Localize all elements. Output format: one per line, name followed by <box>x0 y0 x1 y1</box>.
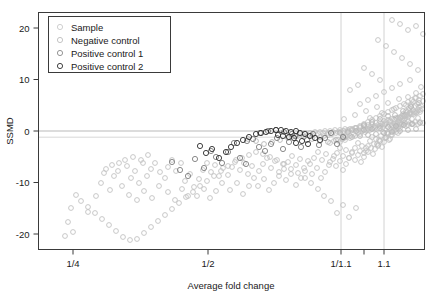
data-point <box>290 154 295 159</box>
data-point <box>120 184 125 189</box>
data-point <box>376 38 381 43</box>
data-point <box>323 170 328 175</box>
data-point <box>114 229 119 234</box>
data-point <box>362 66 367 71</box>
data-point <box>356 153 361 158</box>
data-point <box>125 164 130 169</box>
data-point <box>344 162 349 167</box>
data-point <box>247 153 252 158</box>
data-point <box>247 184 252 189</box>
data-point <box>128 238 133 243</box>
x-tick-label: 1/1.1 <box>330 258 351 269</box>
data-point <box>289 167 294 172</box>
data-point <box>312 156 317 161</box>
data-point <box>191 190 196 195</box>
data-point <box>324 152 329 157</box>
data-point <box>265 156 270 161</box>
data-point <box>390 18 395 23</box>
data-point <box>214 189 219 194</box>
data-point <box>406 128 411 133</box>
data-point <box>133 169 138 174</box>
data-point <box>163 213 168 218</box>
data-point <box>398 22 403 27</box>
data-point <box>213 154 218 159</box>
data-point <box>335 211 340 216</box>
data-point <box>334 164 339 169</box>
data-point <box>408 62 413 67</box>
data-point <box>100 217 105 222</box>
data-point <box>79 199 84 204</box>
data-point <box>93 211 98 216</box>
data-point <box>129 176 134 181</box>
y-tick-label: 20 <box>19 23 30 34</box>
data-point <box>299 138 304 143</box>
data-point <box>110 163 115 168</box>
data-point <box>177 201 182 206</box>
legend-label-positive-control-1: Positive control 1 <box>71 48 143 59</box>
data-point <box>293 140 298 145</box>
data-point <box>195 194 200 199</box>
data-point <box>329 199 334 204</box>
data-point <box>241 192 246 197</box>
data-point <box>257 169 262 174</box>
data-point <box>322 194 327 199</box>
data-point <box>328 160 333 165</box>
data-point <box>94 194 99 199</box>
data-point <box>414 24 419 29</box>
data-point <box>332 154 337 159</box>
data-point <box>273 127 278 132</box>
data-point <box>180 187 185 192</box>
data-point <box>294 183 299 188</box>
data-point <box>353 146 358 151</box>
data-point <box>262 177 267 182</box>
data-point <box>408 78 413 83</box>
data-point <box>158 170 163 175</box>
data-point <box>228 144 233 149</box>
data-point <box>86 210 91 215</box>
data-point <box>256 184 261 189</box>
y-axis-title: SSMD <box>4 117 15 145</box>
data-point <box>269 166 274 171</box>
data-point <box>192 156 197 161</box>
data-point <box>197 177 202 182</box>
data-point <box>213 163 218 168</box>
data-point <box>197 143 202 148</box>
data-point <box>316 187 321 192</box>
data-point <box>74 193 79 198</box>
data-point <box>212 174 217 179</box>
data-point <box>354 206 359 211</box>
data-point <box>235 181 240 186</box>
data-point <box>131 155 136 160</box>
y-tick-label: -10 <box>16 177 30 188</box>
data-point <box>203 150 208 155</box>
data-point <box>135 198 140 203</box>
data-point <box>250 164 255 169</box>
data-point <box>378 78 383 83</box>
y-tick-label: 0 <box>24 126 29 137</box>
data-point <box>406 95 411 100</box>
x-tick-label: 1/4 <box>66 258 79 269</box>
data-point <box>366 98 371 103</box>
data-point <box>353 158 358 163</box>
data-point <box>397 97 402 102</box>
y-tick-label: -20 <box>16 229 30 240</box>
data-point <box>371 152 376 157</box>
data-point <box>414 91 419 96</box>
data-point <box>390 86 395 91</box>
chart-figure: 1/41/21/1.11.120100-10-20 Average fold c… <box>0 0 443 303</box>
data-point <box>104 167 109 172</box>
data-point <box>252 176 257 181</box>
x-axis-title: Average fold change <box>188 280 275 291</box>
data-point <box>374 94 379 99</box>
data-point <box>153 161 158 166</box>
data-point <box>117 161 122 166</box>
data-point <box>66 220 71 225</box>
data-point <box>108 188 113 193</box>
data-point <box>179 161 184 166</box>
data-point <box>310 172 315 177</box>
data-point <box>319 176 324 181</box>
data-point <box>150 196 155 201</box>
data-point <box>302 166 307 171</box>
data-point <box>149 225 154 230</box>
data-point <box>256 144 261 149</box>
